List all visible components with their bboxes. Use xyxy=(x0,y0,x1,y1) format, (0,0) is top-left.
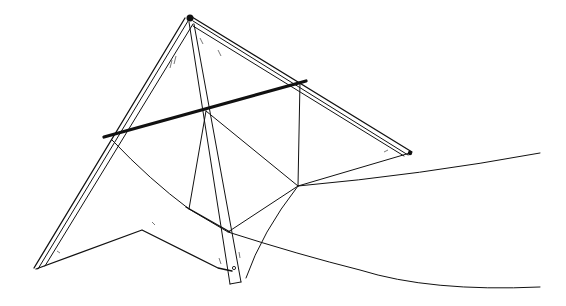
right-leading-edge xyxy=(192,17,412,156)
kite-illustration xyxy=(0,0,566,306)
bridle-lines xyxy=(112,82,300,232)
flying-line-lower xyxy=(228,232,540,288)
shading-marks xyxy=(57,38,388,264)
spine-spar xyxy=(189,22,241,284)
left-leading-edge xyxy=(34,18,193,269)
sail-trailing-edge xyxy=(36,230,232,271)
right-tip-cap xyxy=(408,151,412,155)
flying-line-upper xyxy=(298,153,540,186)
sail-right-trailing-edge xyxy=(246,153,410,278)
nose-cap xyxy=(187,15,194,22)
